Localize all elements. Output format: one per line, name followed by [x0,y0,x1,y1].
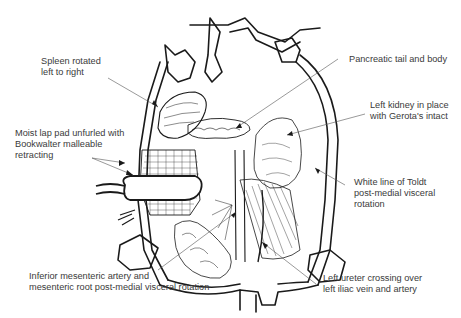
label-spleen: Spleen rotated left to right [41,56,101,78]
inferior-mesenteric-artery [212,200,232,240]
label-inferior-mesenteric-artery: Inferior mesenteric artery and mesenteri… [29,271,209,293]
aorta [235,150,245,262]
left-kidney [254,118,302,188]
left-ureter [258,190,263,262]
label-toldt: White line of Toldt post-medial visceral… [354,177,435,210]
leader-ureter [262,242,316,284]
label-lap-pad: Moist lap pad unfurled with Bookwalter m… [15,128,124,161]
label-left-ureter: Left ureter crossing over left iliac vei… [323,273,422,295]
leader-pancreas [236,59,338,128]
label-pancreas: Pancreatic tail and body [349,54,447,65]
leader-ima [158,212,236,270]
label-kidney: Left kidney in place with Gerota's intac… [370,100,449,122]
psoas-muscle [240,179,300,259]
retractor-top-left-clamp [165,45,195,82]
spleen [158,92,206,138]
